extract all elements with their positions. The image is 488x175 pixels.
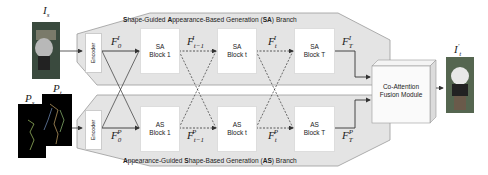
feature-Ft-1-I: Ft−1I	[187, 34, 194, 50]
sa-block-T: SABlock T	[294, 28, 335, 74]
sa-branch-title: Shape-Guided Appearance-Based Generation…	[123, 16, 297, 23]
output-image-label: I′t	[454, 42, 461, 58]
as-branch-title: Appearance-Guided Shape-Based Generation…	[123, 157, 297, 164]
source-pose-label: Ps	[25, 92, 34, 107]
feature-Ft-1-P: Ft−1P	[187, 128, 196, 144]
feature-FT-I: FTI	[342, 34, 351, 50]
fusion-module: Co-AttentionFusion Module	[372, 83, 430, 99]
target-pose-label: Pt	[53, 82, 62, 97]
sa-block-1: SABlock 1	[140, 28, 180, 74]
as-block-t: ASBlock t	[217, 106, 257, 152]
as-block-T: ASBlock T	[294, 106, 335, 152]
sa-encoder: Encoder	[85, 33, 102, 73]
sa-block-t: SABlock t	[217, 28, 257, 74]
feature-Ft-I: FtI	[268, 34, 276, 50]
feature-Ft-P: FtP	[268, 128, 278, 144]
feature-FT-P: FTP	[342, 128, 353, 144]
feature-F0-P: F0P	[111, 128, 122, 144]
as-encoder: Encoder	[85, 110, 102, 150]
feature-F0-I: F0I	[111, 34, 120, 50]
as-block-1: ASBlock 1	[140, 106, 180, 152]
source-image-label: Is	[43, 4, 49, 19]
